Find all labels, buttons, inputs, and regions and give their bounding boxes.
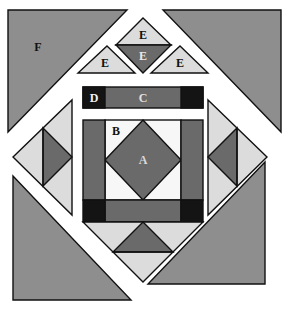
- piece-corner-bottom-right: [181, 200, 203, 222]
- piece-corner-bottom-left: [83, 200, 105, 222]
- piece-strip-left: [83, 120, 105, 200]
- quilt-block-diagram: F E E E E D C B A: [0, 0, 290, 311]
- label-e-center: E: [139, 49, 147, 63]
- label-e-top: E: [139, 28, 147, 42]
- label-b: B: [112, 124, 120, 138]
- label-f: F: [34, 40, 41, 54]
- label-e-left: E: [101, 56, 109, 70]
- label-a: A: [139, 153, 148, 167]
- piece-d-right: [181, 87, 203, 108]
- label-e-right: E: [176, 56, 184, 70]
- piece-strip-right: [181, 120, 203, 200]
- piece-strip-bottom: [105, 200, 181, 222]
- label-d: D: [90, 91, 99, 105]
- label-c: C: [139, 91, 148, 105]
